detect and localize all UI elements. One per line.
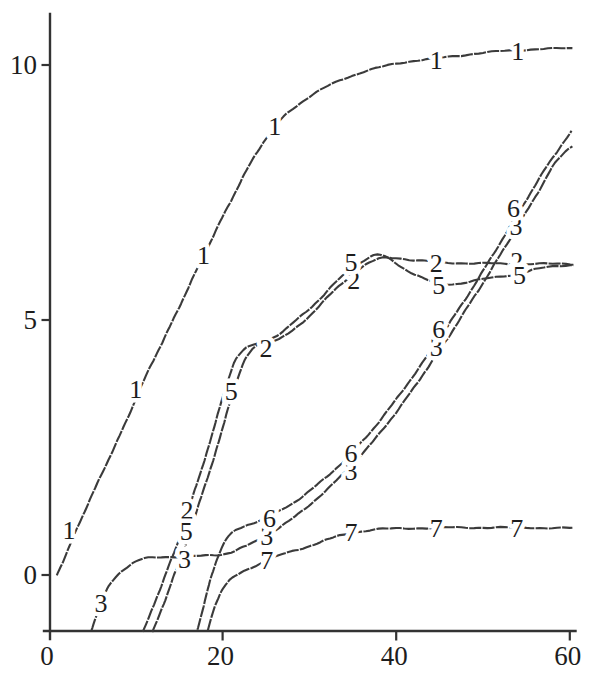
x-tick-label-0: 0 [40, 641, 54, 671]
x-tick-label-20: 20 [207, 641, 234, 671]
curve-5-label-4: 5 [513, 261, 526, 290]
curve-1-label-2: 1 [197, 241, 210, 270]
x-tick-label-40: 40 [381, 641, 408, 671]
curve-5-label-2: 5 [345, 248, 358, 277]
curve-2-label-1: 2 [260, 334, 273, 363]
curve-7-label-1: 7 [345, 518, 358, 547]
curve-7-label-0: 7 [260, 546, 273, 575]
curve-1-label-4: 1 [430, 46, 443, 75]
y-tick-label-5: 5 [24, 305, 38, 335]
curve-6-label-0: 6 [263, 504, 276, 533]
scanned-line-chart-figure: 0510020406011111122222333333555556666777… [0, 0, 597, 689]
curve-5-path [152, 254, 573, 632]
curve-1-label-3: 1 [268, 112, 281, 141]
curve-3-path [92, 146, 573, 630]
x-tick-label-60: 60 [554, 641, 581, 671]
curve-1-label-5: 1 [511, 37, 524, 66]
curve-7-label-2: 7 [430, 514, 443, 543]
curve-6-label-1: 6 [345, 439, 358, 468]
y-tick-label-10: 10 [10, 50, 37, 80]
curve-5-label-3: 5 [432, 271, 445, 300]
curve-7-label-3: 7 [510, 514, 523, 543]
curve-1-label-1: 1 [129, 375, 142, 404]
curve-1-label-0: 1 [62, 516, 75, 545]
curve-5-label-0: 5 [180, 517, 193, 546]
curve-3-label-1: 3 [178, 545, 191, 574]
curve-5-label-1: 5 [225, 377, 238, 406]
line-chart-svg: 0510020406011111122222333333555556666777… [0, 0, 597, 689]
curve-3-label-0: 3 [95, 589, 108, 618]
y-tick-label-0: 0 [24, 560, 38, 590]
curve-6-label-2: 6 [432, 315, 445, 344]
curve-6-label-3: 6 [507, 194, 520, 223]
